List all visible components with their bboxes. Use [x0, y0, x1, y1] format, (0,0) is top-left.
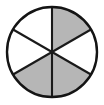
fraction-circle-diagram — [0, 0, 104, 105]
pie-chart-svg — [0, 0, 104, 105]
